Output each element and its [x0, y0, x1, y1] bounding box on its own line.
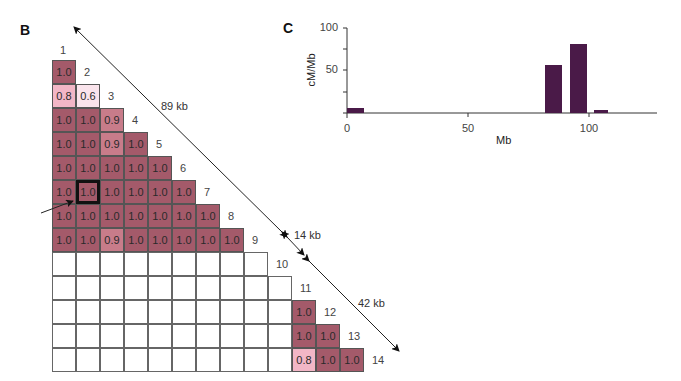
chart-bar: [545, 65, 562, 113]
x-axis-title: Mb: [496, 134, 511, 146]
x-tick-0: 0: [332, 122, 362, 134]
chart-bar: [347, 108, 364, 113]
pointer-arrow: [41, 201, 73, 213]
x-tick-50: 50: [453, 122, 483, 134]
chart-bar: [594, 110, 609, 113]
distance-arrow-89kb: [74, 27, 282, 232]
distance-label-14kb: 14 kb: [294, 229, 321, 241]
distance-arrow-42kb: [309, 261, 399, 351]
y-tick-100: 100: [308, 21, 338, 33]
y-axis-title: cM/Mb: [305, 54, 317, 87]
x-tick-100: 100: [574, 122, 604, 134]
distance-label-89kb: 89 kb: [161, 100, 188, 112]
chart-bar: [570, 44, 587, 113]
distance-label-42kb: 42 kb: [358, 297, 385, 309]
